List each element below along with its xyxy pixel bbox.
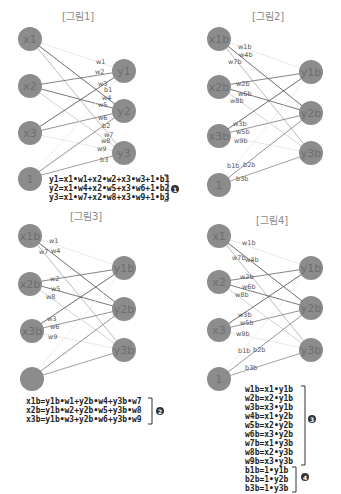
node-label: y2b [301, 107, 322, 120]
figure-1: [그림1] w1 w2 w3 b1 w4 w5 w6 b2 w7 [18, 11, 179, 202]
figure-3: [그림3] w1 w7 w4 w2 w5 w8 w3 w6 w9 [18, 211, 164, 424]
weight-label: w8 [101, 137, 110, 145]
node-label: x1 [212, 230, 226, 243]
node-label: y2b [114, 303, 135, 316]
equation-w9b: w9b=x3•y3b [245, 457, 293, 466]
bracket [148, 398, 152, 424]
equation-b3b: b3b=1•y3b [245, 484, 289, 493]
weight-label: w1 [96, 58, 105, 66]
node-label: y3b [301, 344, 322, 357]
node-label: x1b [20, 230, 41, 243]
weight-label: w1b [242, 239, 256, 247]
node-label: y1b [114, 262, 135, 275]
node-label: y2 [117, 105, 131, 118]
neural-network-diagrams: [그림1] w1 w2 w3 b1 w4 w5 w6 b2 w7 [0, 0, 341, 494]
badge-number: 4 [303, 474, 307, 481]
equation-w7b: w7b=x1•y3b [245, 439, 293, 448]
node-label: y3 [117, 147, 131, 160]
weight-label: w3b [233, 120, 247, 128]
equation-w5b: w5b=x2•y2b [245, 421, 293, 430]
node-label: y3b [114, 344, 135, 357]
figure-3-title: [그림3] [70, 211, 102, 222]
weight-label: w9b [236, 330, 250, 338]
weight-label: w5b [236, 128, 250, 136]
node-label: 1 [216, 179, 223, 192]
equation-w8b: w8b=x2•y3b [245, 448, 293, 457]
weight-label: w6b [242, 283, 256, 291]
equation-w4b: w4b=x1•y2b [245, 412, 293, 421]
weight-label: w7 [39, 248, 48, 256]
figure-2-title: [그림2] [252, 11, 284, 22]
equation-y2: y2=x1•w4+x2•w5+x3•w6+1•b2 [49, 184, 170, 193]
node-label: x3b [209, 130, 230, 143]
badge-number: 3 [310, 416, 314, 423]
weight-label: w1 [49, 237, 58, 245]
figure-1-input-nodes: x1 x2 x3 1 [18, 27, 42, 191]
node-label: x2 [23, 80, 37, 93]
equation-x1b: x1b=y1b•w1+y2b•w4+y3b•w7 [26, 397, 142, 406]
weight-label: b2 [102, 122, 110, 130]
weight-label: b3b [245, 364, 257, 372]
node-label: 1 [216, 373, 223, 386]
weight-label: w2 [95, 68, 104, 76]
figure-1-title: [그림1] [62, 11, 94, 22]
bracket [292, 467, 296, 492]
badge-number: 1 [173, 186, 177, 193]
node-bias-blank [20, 367, 44, 391]
node-label: x3 [212, 324, 226, 337]
weight-label: w3 [47, 315, 56, 323]
weight-label: w5b [240, 319, 254, 327]
figure-2-output-nodes: y1b y2b y3b [299, 60, 323, 165]
weight-label: w4b [245, 256, 259, 264]
weight-label: b3b [236, 175, 248, 183]
node-label: x3 [23, 127, 37, 140]
weight-label: w7b [228, 58, 242, 66]
weight-label: w9 [97, 145, 106, 153]
equation-x3b: x3b=y1b•w3+y2b•w6+y3b•w9 [26, 415, 142, 424]
weight-label: w6 [98, 114, 107, 122]
node-label: y1b [301, 262, 322, 275]
weight-label: w4 [51, 247, 60, 255]
node-label: x2b [20, 278, 41, 291]
figure-4-title: [그림4] [256, 215, 288, 226]
figure-4-output-nodes: y1b y2b y3b [299, 256, 323, 362]
equation-w3b: w3b=x3•y1b [245, 403, 293, 412]
figure-4: [그림4] w1b w7b w4b w2b w6b w8b w3b w5b w9… [207, 215, 323, 493]
node-label: x1b [209, 33, 230, 46]
figure-2: [그림2] w1b w4b w7b w2b w6b w8b w3b w5b w9… [207, 11, 323, 197]
figure-4-weight-labels: w1b w7b w4b w2b w6b w8b w3b w5b w9b b1b … [232, 239, 265, 372]
weight-label: w1b [238, 43, 252, 51]
node-label: x2b [209, 81, 230, 94]
weight-label: w7b [232, 254, 246, 262]
weight-label: w8 [46, 293, 55, 301]
weight-label: b1b [227, 162, 239, 170]
node-label: x2 [212, 276, 226, 289]
figure-3-edges [30, 236, 124, 379]
equation-b2b: b2b=1•y2b [245, 475, 289, 484]
node-label: y3b [301, 147, 322, 160]
equation-y3: y3=x1•w7+x2•w8+x3•w9+1•b3 [49, 193, 170, 202]
node-label: x3b [22, 325, 43, 338]
weight-label: w9 [48, 333, 57, 341]
figure-2-input-nodes: x1b x2b x3b 1 [207, 27, 231, 197]
equation-w1b: w1b=x1•y1b [245, 385, 293, 394]
weight-label: w5 [51, 285, 60, 293]
figure-3-equations: x1b=y1b•w1+y2b•w4+y3b•w7 x2b=y1b•w2+y2b•… [26, 397, 164, 424]
weight-label: w8b [235, 291, 249, 299]
weight-label: b1 [104, 86, 112, 94]
weight-label: w2 [50, 275, 59, 283]
equation-w6b: w6b=x3•y2b [245, 430, 293, 439]
node-label: y2b [301, 302, 322, 315]
weight-label: w9b [234, 137, 248, 145]
weight-label: b2b [243, 161, 255, 169]
figure-4-input-nodes: x1 x2 x3 1 [207, 224, 231, 391]
badge-number: 2 [158, 408, 162, 415]
equation-x2b: x2b=y1b•w2+y2b•w5+y3b•w8 [26, 406, 142, 415]
weight-label: b2b [253, 346, 265, 354]
weight-label: w3b [238, 311, 252, 319]
weight-label: w6 [50, 323, 59, 331]
weight-label: w2b [240, 273, 254, 281]
weight-label: w8b [230, 97, 244, 105]
figure-1-weight-labels: w1 w2 w3 b1 w4 w5 w6 b2 w7 w8 w9 b3 [95, 58, 113, 164]
node-label: 1 [27, 173, 34, 186]
